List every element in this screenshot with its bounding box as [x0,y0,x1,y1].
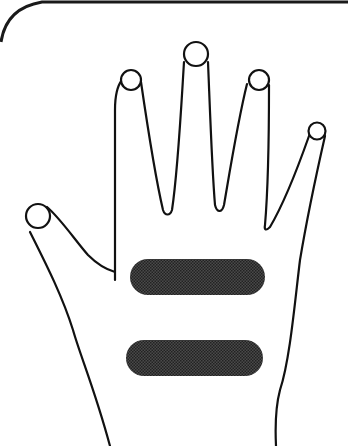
pinky-finger [276,136,325,446]
index-nail [121,70,141,90]
hand-diagram [0,0,348,446]
band-upper [130,259,265,295]
middle-finger-inner [208,62,247,211]
thumb-inner [47,207,115,272]
frame-border [1,2,348,42]
pinky-nail [309,123,326,140]
index-finger [115,80,122,280]
ring-nail [249,70,269,90]
thumb-nail [26,204,50,228]
ring-finger-inner [265,85,309,229]
fingernails [26,42,326,228]
middle-nail [184,42,208,66]
hand-outline [30,62,325,446]
band-lower [126,340,263,376]
index-finger-inner [141,62,184,215]
